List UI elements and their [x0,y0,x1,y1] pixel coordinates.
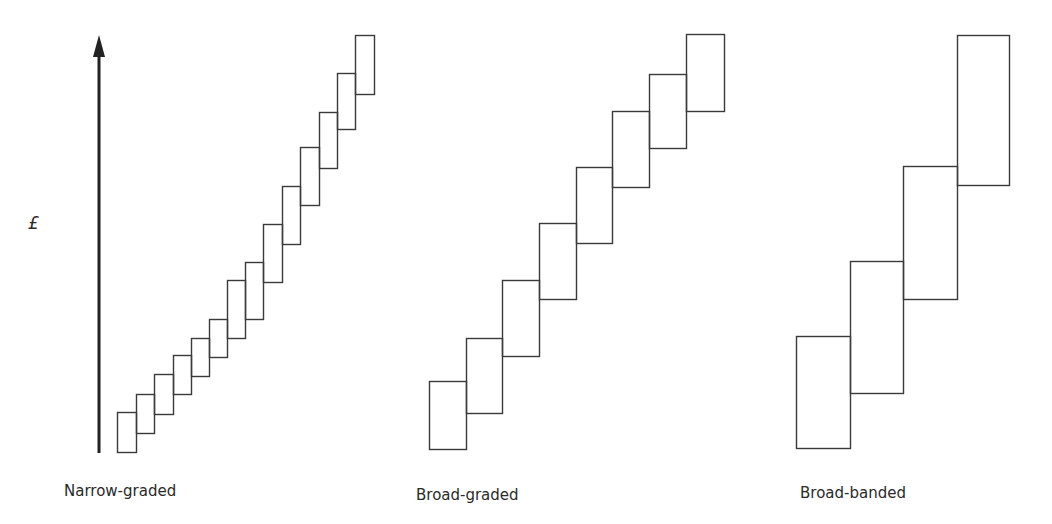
pay-grade-box [137,395,155,434]
pay-grade-box [264,225,283,283]
pay-grade-box [503,281,540,357]
pay-grade-box [430,382,467,450]
pay-grade-box [320,113,338,169]
pay-grade-box [577,168,613,244]
pay-grade-box [540,224,577,300]
pay-grade-box [958,36,1010,186]
broad-graded-label: Broad-graded [416,486,519,504]
pay-grade-box [904,167,958,300]
pay-grade-box [467,339,503,414]
pay-grade-box [118,413,137,453]
broad-banded-panel [797,36,1010,449]
pay-structure-diagram [0,0,1052,524]
pay-grade-box [174,356,192,395]
pay-grade-box [687,35,725,112]
pay-grade-box [613,112,650,188]
pay-grade-box [851,262,904,394]
pay-grade-box [246,263,264,320]
pay-grade-box [338,74,356,130]
pay-grade-box [210,320,228,358]
narrow-graded-panel [118,36,375,453]
pay-grade-box [155,375,174,415]
pay-grade-box [797,337,851,449]
vertical-pay-axis [93,35,105,453]
pay-grade-box [283,187,301,245]
broad-banded-label: Broad-banded [800,484,906,502]
pay-grade-box [192,339,210,377]
arrow-up-icon [93,35,105,57]
pay-grade-box [228,281,246,339]
pound-axis-label: £ [28,213,39,233]
pay-grade-box [650,75,687,149]
broad-graded-panel [430,35,725,450]
narrow-graded-label: Narrow-graded [64,482,176,500]
pay-grade-box [301,148,320,206]
pay-grade-box [356,36,375,95]
